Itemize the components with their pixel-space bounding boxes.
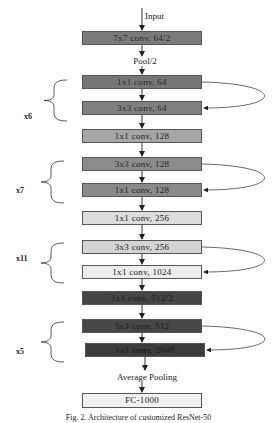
skip-connection-arrow	[202, 164, 265, 190]
repeat-label-x6: x6	[24, 112, 32, 121]
skip-connection-arrow	[202, 326, 265, 350]
input-label: Input	[145, 11, 185, 21]
average-pooling-label: Average Pooling	[82, 372, 212, 382]
skip-connection-arrow	[202, 82, 265, 108]
repeat-brace	[41, 322, 64, 362]
repeat-label-x5: x5	[16, 347, 24, 356]
conv4-1x1-1024-box: 1x1 conv, 1024	[82, 265, 202, 279]
fc-1000-box: FC-1000	[82, 393, 202, 408]
repeat-brace	[44, 80, 67, 121]
repeat-label-x7: x7	[16, 186, 24, 195]
repeat-brace	[41, 161, 64, 203]
conv4-3x3-256-box: 3x3 conv, 256	[82, 240, 202, 254]
pool-label: Pool/2	[115, 56, 175, 66]
repeat-label-x11: x11	[16, 254, 28, 263]
conv2-1x1-64-box: 1x1 conv, 64	[82, 75, 202, 89]
conv5-3x3-512-box: 3x3 conv, 512	[82, 319, 202, 333]
conv5-1x1-2048-box: 1x1 conv, 2048	[85, 343, 205, 357]
conv3-1x1-128-box: 1x1 conv, 128	[82, 183, 202, 197]
conv3-3x3-128-box: 3x3 conv, 128	[82, 157, 202, 171]
figure-caption: Fig. 2. Architecture of customized ResNe…	[0, 413, 277, 422]
conv1-box: 7x7 conv, 64/2	[82, 31, 202, 45]
conv2-3x3-64-box: 3x3 conv, 64	[82, 101, 202, 115]
skip-connection-arrow	[202, 247, 265, 272]
conv3-1x1-256-box: 1x1 conv, 256	[82, 211, 202, 225]
repeat-brace	[41, 243, 64, 283]
conv2-1x1-128-box: 1x1 conv, 128	[82, 129, 202, 143]
conv4-1x1-512-box: 1x1 conv, 512/2	[82, 291, 202, 305]
